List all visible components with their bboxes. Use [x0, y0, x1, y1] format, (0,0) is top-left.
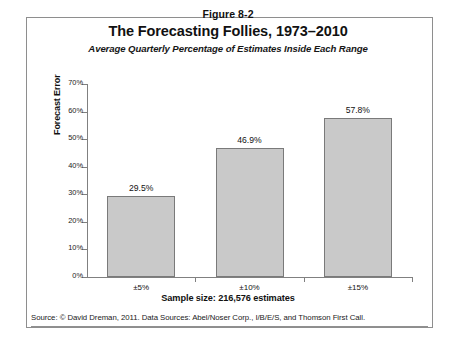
bar: 57.8%±15%: [324, 118, 392, 277]
x-tick: [412, 277, 413, 282]
x-tick: [195, 277, 196, 282]
y-tick-label: 70%: [68, 78, 83, 87]
figure-number: Figure 8-2: [0, 8, 456, 21]
bar: 29.5%±5%: [107, 196, 175, 277]
title-block: Figure 8-2 The Forecasting Follies, 1973…: [0, 8, 456, 55]
y-axis-line: [87, 84, 88, 277]
source-divider: [31, 326, 428, 327]
y-tick-label: 20%: [68, 216, 83, 225]
x-axis-line: [87, 277, 412, 278]
source-note: Source: © David Dreman, 2011. Data Sourc…: [31, 313, 365, 322]
x-tick-label: ±15%: [348, 283, 368, 292]
y-tick-label: 60%: [68, 106, 83, 115]
y-tick-label: 30%: [68, 188, 83, 197]
y-axis-label: Forecast Error: [52, 74, 62, 135]
bar-value-label: 46.9%: [237, 135, 261, 145]
bar: 46.9%±10%: [216, 148, 284, 277]
x-axis-label: Sample size: 216,576 estimates: [0, 293, 456, 303]
figure-panel: Figure 8-2 The Forecasting Follies, 1973…: [0, 0, 456, 349]
x-tick-label: ±5%: [133, 283, 149, 292]
bar-value-label: 29.5%: [129, 183, 153, 193]
x-tick: [304, 277, 305, 282]
bar-value-label: 57.8%: [346, 105, 370, 115]
y-tick-label: 0%: [72, 271, 83, 280]
y-tick-label: 10%: [68, 243, 83, 252]
figure-subtitle: Average Quarterly Percentage of Estimate…: [0, 42, 456, 55]
y-tick-label: 50%: [68, 133, 83, 142]
plot-area: 0%10%20%30%40%50%60%70% 29.5%±5%46.9%±10…: [87, 84, 412, 277]
figure-title: The Forecasting Follies, 1973–2010: [0, 22, 456, 40]
x-tick-label: ±10%: [239, 283, 259, 292]
y-tick-label: 40%: [68, 161, 83, 170]
